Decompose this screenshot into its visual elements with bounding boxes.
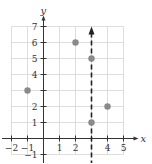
- plot-canvas: −2−11245−1124567 x y: [0, 0, 152, 163]
- x-axis-arrow-icon: [134, 137, 139, 141]
- x-tick-label: 1: [57, 143, 63, 153]
- data-points: [24, 39, 110, 125]
- x-tick-label: 4: [105, 143, 111, 153]
- data-point: [104, 103, 110, 109]
- data-point: [88, 55, 94, 61]
- y-tick-label: 2: [32, 102, 38, 112]
- x-tick-label: −2: [5, 143, 18, 153]
- y-axis-arrow-icon: [42, 16, 46, 21]
- data-point: [88, 119, 94, 125]
- y-tick-label: 7: [32, 22, 38, 32]
- x-tick-label: 2: [73, 143, 79, 153]
- y-tick-label: 4: [32, 70, 38, 80]
- y-tick-label: 5: [32, 54, 38, 64]
- scatter-plot: −2−11245−1124567 x y: [0, 0, 152, 163]
- data-point: [72, 39, 78, 45]
- y-tick-label: 6: [32, 38, 38, 48]
- arrow-up-icon: [89, 27, 95, 35]
- x-axis-label: x: [141, 133, 147, 144]
- y-tick-label: 1: [32, 118, 38, 128]
- x-tick-label: 5: [121, 143, 127, 153]
- data-point: [24, 87, 30, 93]
- y-tick-label: −1: [24, 150, 37, 160]
- y-axis-label: y: [40, 5, 47, 16]
- axes: [2, 16, 139, 164]
